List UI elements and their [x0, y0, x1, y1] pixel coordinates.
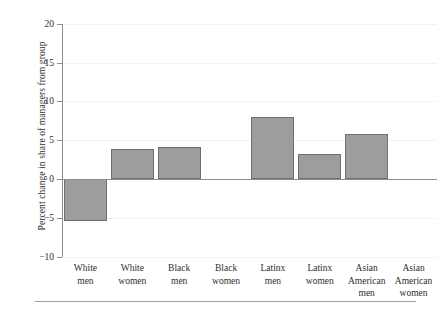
- y-tick-mark-20: [57, 24, 62, 25]
- y-tick-label-10: 10: [45, 96, 55, 106]
- bar-white-women: [111, 149, 154, 179]
- y-tick-label-5: 5: [49, 135, 54, 145]
- bar-chart-figure: Percent change in share of managers from…: [0, 0, 447, 315]
- bar-asian-american-men: [345, 134, 388, 180]
- x-label-line: women: [383, 287, 444, 300]
- y-axis-line: [62, 24, 63, 257]
- gridline-minus10: [62, 257, 437, 258]
- y-tick-label-minus5: −5: [44, 213, 54, 223]
- bar-latinx-women: [298, 154, 341, 180]
- footer-rule: [35, 301, 416, 302]
- zero-baseline: [62, 179, 437, 180]
- gridline-15: [62, 63, 437, 64]
- y-tick-label-20: 20: [45, 19, 55, 29]
- bar-latinx-men: [251, 117, 294, 179]
- y-tick-label-15: 15: [45, 58, 55, 68]
- bar-black-men: [158, 147, 201, 180]
- y-tick-label-minus10: −10: [39, 252, 54, 262]
- y-axis-title: Percent change in share of managers from…: [37, 11, 47, 261]
- plot-area: 20 15 10 5 0 −5 −10 White: [62, 24, 437, 257]
- y-tick-mark-minus10: [57, 257, 62, 258]
- y-tick-label-0: 0: [49, 174, 54, 184]
- gridline-10: [62, 101, 437, 102]
- x-label-line: Asian: [383, 262, 444, 275]
- x-label-asian-american-women: AsianAmericanwomen: [383, 262, 444, 300]
- gridline-20: [62, 24, 437, 25]
- y-tick-mark-5: [57, 140, 62, 141]
- x-label-line: American: [383, 275, 444, 288]
- y-tick-mark-minus5: [57, 218, 62, 219]
- y-tick-mark-10: [57, 101, 62, 102]
- y-tick-mark-15: [57, 63, 62, 64]
- gridline-minus5: [62, 218, 437, 219]
- bar-white-men: [64, 179, 107, 221]
